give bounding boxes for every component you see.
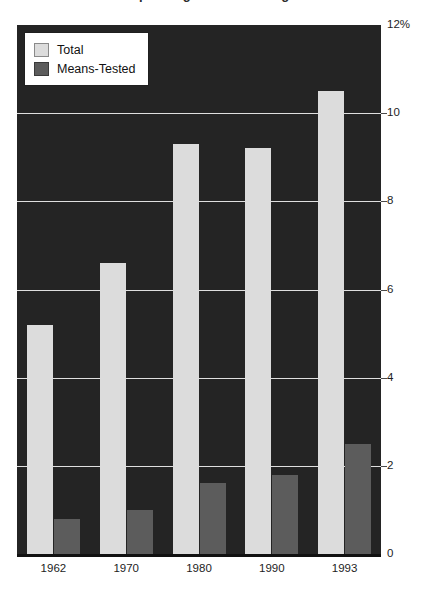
y-tick-label-8: 8	[387, 195, 393, 207]
x-axis-baseline	[17, 554, 381, 557]
y-tick-mark-8	[381, 201, 387, 202]
bar-chart-figure: Welfare Spending as a Percentage of GDP …	[0, 0, 424, 589]
x-tick-label-1970: 1970	[96, 562, 156, 574]
bar-1993-means-tested	[345, 444, 371, 554]
x-tick-label-1962: 1962	[23, 562, 83, 574]
legend-item-total: Total	[34, 40, 136, 59]
y-tick-label-0: 0	[387, 548, 393, 560]
y-tick-mark-10	[381, 113, 387, 114]
y-tick-label-10: 10	[387, 107, 400, 119]
x-tick-label-1980: 1980	[169, 562, 229, 574]
y-tick-mark-2	[381, 466, 387, 467]
x-tick-label-1993: 1993	[315, 562, 375, 574]
bar-group-1993	[17, 25, 381, 554]
legend-label-means-tested: Means-Tested	[57, 62, 136, 76]
y-tick-label-12: 12%	[387, 19, 410, 31]
chart-legend: Total Means-Tested	[24, 32, 149, 86]
y-tick-mark-6	[381, 290, 387, 291]
legend-swatch-total-icon	[34, 43, 49, 57]
legend-item-means-tested: Means-Tested	[34, 59, 136, 78]
y-tick-label-6: 6	[387, 284, 393, 296]
y-tick-label-4: 4	[387, 372, 393, 384]
x-tick-label-1990: 1990	[242, 562, 302, 574]
legend-label-total: Total	[57, 43, 83, 57]
y-tick-mark-4	[381, 378, 387, 379]
plot-area	[17, 25, 381, 554]
legend-swatch-means-tested-icon	[34, 62, 49, 76]
bar-1993-total	[318, 91, 344, 554]
chart-title: Welfare Spending as a Percentage of GDP	[0, 0, 424, 3]
y-tick-label-2: 2	[387, 460, 393, 472]
